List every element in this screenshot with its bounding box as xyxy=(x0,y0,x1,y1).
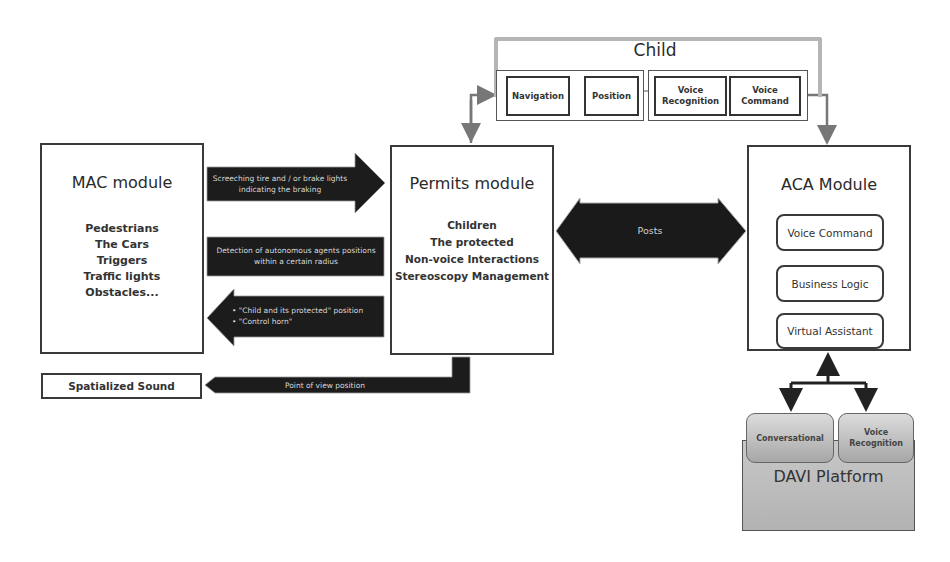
child-item-navigation: Navigation xyxy=(506,76,570,116)
aca-item-business-logic: Business Logic xyxy=(776,265,884,302)
child-item-label: Voice Recognition xyxy=(661,85,721,107)
mac-item: Obstacles... xyxy=(42,285,202,301)
permits-child-connector xyxy=(471,95,492,143)
permits-item: Non-voice Interactions xyxy=(392,251,552,268)
child-protected-line-1: • "Child and its protected" position xyxy=(232,305,382,316)
child-protected-arrow-label: • "Child and its protected" position • "… xyxy=(232,305,382,327)
aca-item-label: Virtual Assistant xyxy=(787,325,872,337)
child-item-voice-recognition: Voice Recognition xyxy=(654,76,727,116)
aca-item-voice-command: Voice Command xyxy=(776,214,884,251)
point-of-view-label: Point of view position xyxy=(250,380,400,391)
detection-arrow-label: Detection of autonomous agents positions… xyxy=(212,245,380,267)
permits-module-title: Permits module xyxy=(392,174,552,193)
davi-platform-title: DAVI Platform xyxy=(743,467,914,486)
davi-item-voice-recognition: Voice Recognition xyxy=(838,413,914,463)
posts-arrow-label: Posts xyxy=(620,225,680,236)
child-item-position: Position xyxy=(584,76,639,116)
child-item-label: Position xyxy=(592,91,631,102)
child-aca-connector xyxy=(806,95,827,140)
davi-item-conversational: Conversational xyxy=(746,413,834,463)
child-title: Child xyxy=(600,40,710,60)
mac-module-list: Pedestrians The Cars Triggers Traffic li… xyxy=(42,221,202,301)
aca-item-virtual-assistant: Virtual Assistant xyxy=(776,313,884,349)
davi-item-label: Voice Recognition xyxy=(846,427,906,449)
aca-module: ACA Module Voice Command Business Logic … xyxy=(747,145,911,351)
screeching-arrow-label: Screeching tire and / or brake lights in… xyxy=(210,173,350,195)
child-item-label: Voice Command xyxy=(740,85,790,107)
mac-item: Pedestrians xyxy=(42,221,202,237)
aca-davi-connector xyxy=(791,358,866,406)
mac-item: Triggers xyxy=(42,253,202,269)
child-item-voice-command: Voice Command xyxy=(729,76,801,116)
mac-item: The Cars xyxy=(42,237,202,253)
permits-item: Stereoscopy Management xyxy=(392,268,552,285)
permits-item: The protected xyxy=(392,234,552,251)
mac-module-title: MAC module xyxy=(42,173,202,192)
child-item-label: Navigation xyxy=(512,91,564,102)
child-protected-line-2: • "Control horn" xyxy=(232,316,382,327)
permits-module: Permits module Children The protected No… xyxy=(390,145,554,355)
spatialized-sound-label: Spatialized Sound xyxy=(68,380,175,392)
mac-item: Traffic lights xyxy=(42,269,202,285)
davi-item-label: Conversational xyxy=(756,433,824,444)
aca-module-title: ACA Module xyxy=(749,175,909,194)
aca-item-label: Business Logic xyxy=(791,278,868,290)
aca-item-label: Voice Command xyxy=(787,227,872,239)
permits-item: Children xyxy=(392,217,552,234)
permits-module-list: Children The protected Non-voice Interac… xyxy=(392,217,552,285)
spatialized-sound-box: Spatialized Sound xyxy=(41,373,202,399)
mac-module: MAC module Pedestrians The Cars Triggers… xyxy=(40,143,204,354)
